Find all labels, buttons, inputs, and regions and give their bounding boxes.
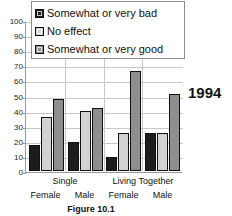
- x-axis-sub-label: Female: [30, 190, 60, 200]
- bar: [157, 133, 168, 171]
- x-axis-sub-labels: FemaleMaleFemaleMale: [0, 190, 182, 202]
- legend-swatch-icon: [35, 45, 44, 54]
- bar: [145, 133, 156, 171]
- y-axis-tick-label: 60: [14, 78, 23, 86]
- y-axis-tick-mark: [23, 128, 26, 129]
- legend-item[interactable]: No effect: [35, 22, 184, 40]
- y-axis-tick-mark: [23, 22, 26, 23]
- bar: [118, 133, 129, 171]
- legend-item[interactable]: Somewhat or very good: [35, 40, 184, 58]
- y-axis-tick-label: 100: [10, 18, 23, 26]
- y-axis-tick-mark: [23, 67, 26, 68]
- y-axis-tick-label: 90: [14, 33, 23, 41]
- bar: [169, 94, 180, 171]
- y-axis-tick-mark: [23, 143, 26, 144]
- figure-caption: Figure 10.1: [0, 204, 182, 214]
- bar: [92, 108, 103, 171]
- x-axis-sub-label: Female: [108, 190, 138, 200]
- legend-item[interactable]: Somewhat or very bad: [35, 4, 184, 22]
- year-annotation: 1994: [188, 84, 221, 101]
- x-axis-group-labels: SingleLiving Together: [26, 176, 182, 188]
- bar: [29, 145, 40, 171]
- bar: [41, 117, 52, 171]
- legend-label: Somewhat or very good: [47, 44, 163, 55]
- y-axis-tick-label: 40: [14, 109, 23, 117]
- chart-legend: Somewhat or very badNo effectSomewhat or…: [31, 1, 185, 59]
- y-axis-tick-label: 70: [14, 63, 23, 71]
- y-axis-tick-mark: [23, 173, 26, 174]
- y-axis-tick-mark: [23, 98, 26, 99]
- y-axis-tick-mark: [23, 52, 26, 53]
- legend-label: No effect: [47, 26, 91, 37]
- y-axis-tick-label: 10: [14, 154, 23, 162]
- x-axis-group-label: Single: [52, 176, 77, 186]
- y-axis-tick-label: 80: [14, 48, 23, 56]
- y-axis-tick-mark: [23, 113, 26, 114]
- y-axis-tick-label: 20: [14, 139, 23, 147]
- y-axis-tick-label: 50: [14, 94, 23, 102]
- bar: [80, 111, 91, 171]
- bar: [106, 157, 117, 171]
- figure-10-1: 1009080706050403020100 Somewhat or very …: [0, 0, 232, 216]
- x-axis-sub-label: Male: [75, 190, 95, 200]
- x-axis-group-label: Living Together: [113, 176, 174, 186]
- x-axis-sub-label: Male: [153, 190, 173, 200]
- bar: [53, 99, 64, 171]
- y-axis-tick-label: 30: [14, 124, 23, 132]
- bar: [68, 142, 79, 171]
- legend-swatch-icon: [35, 9, 44, 18]
- legend-label: Somewhat or very bad: [47, 8, 157, 19]
- y-axis-tick-label: 0: [19, 169, 23, 177]
- y-axis-tick-mark: [23, 82, 26, 83]
- bar: [130, 71, 141, 171]
- y-axis-tick-mark: [23, 158, 26, 159]
- legend-swatch-icon: [35, 27, 44, 36]
- y-axis-tick-mark: [23, 37, 26, 38]
